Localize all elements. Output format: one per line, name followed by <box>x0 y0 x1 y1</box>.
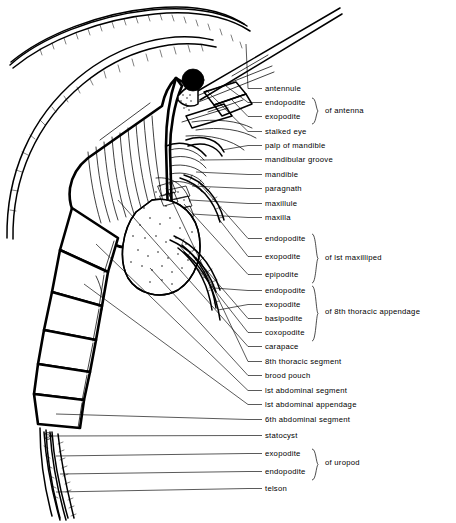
group-label-maxilliped: of lst maxilliped <box>325 253 382 262</box>
label-maxillule: maxillule <box>265 199 297 208</box>
label-paragnath: paragnath <box>265 184 302 193</box>
label-exopodite-antenna: exopodite <box>265 112 301 121</box>
label-1st-abdominal-appendage: lst abdominal appendage <box>265 400 357 409</box>
label-1st-abdominal-segment: lst abdominal segment <box>265 386 348 395</box>
label-statocyst: statocyst <box>265 431 298 440</box>
label-maxilla: maxilla <box>265 213 291 222</box>
mysid-anatomy-figure: antennuleendopoditeexopoditestalked eyep… <box>0 0 456 523</box>
label-exopodite-maxilliped: exopodite <box>265 252 301 261</box>
label-exopodite-thoracic: exopodite <box>265 300 301 309</box>
label-basipodite-thoracic: basipodite <box>265 314 303 323</box>
label-endopodite-antenna: endopodite <box>265 98 306 107</box>
label-endopodite-uropod: endopodite <box>265 467 306 476</box>
group-label-uropod: of uropod <box>325 458 360 467</box>
group-label-thoracic: of 8th thoracic appendage <box>325 307 420 316</box>
label-antennule: antennule <box>265 84 301 93</box>
label-epipodite-maxilliped: epipodite <box>265 270 298 279</box>
label-endopodite-thoracic: endopodite <box>265 286 306 295</box>
label-palp-of-mandible: palp of mandible <box>265 141 325 150</box>
label-mandibular-groove: mandibular groove <box>265 155 333 164</box>
label-6th-abdominal-segment: 6th abdominal segment <box>265 415 351 424</box>
label-telson: telson <box>265 484 287 493</box>
label-mandible: mandible <box>265 170 298 179</box>
label-brood-pouch: brood pouch <box>265 371 311 380</box>
label-stalked-eye: stalked eye <box>265 127 307 136</box>
label-exopodite-uropod: exopodite <box>265 449 301 458</box>
abdominal-segment-6 <box>34 394 84 428</box>
label-8th-thoracic-segment: 8th thoracic segment <box>265 357 342 366</box>
label-endopodite-maxilliped: endopodite <box>265 234 306 243</box>
label-carapace: carapace <box>265 342 299 351</box>
group-label-antenna: of antenna <box>325 106 364 115</box>
label-coxopodite-thoracic: coxopodite <box>265 328 305 337</box>
